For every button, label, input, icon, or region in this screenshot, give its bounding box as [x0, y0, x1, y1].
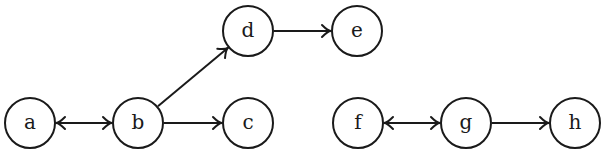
- node-f: f: [333, 98, 383, 148]
- node-b: b: [113, 98, 163, 148]
- node-c: c: [223, 98, 273, 148]
- edge-b-c: [164, 117, 222, 129]
- edge-line: [158, 48, 228, 107]
- graph-diagram: abcdefgh: [0, 0, 605, 153]
- node-label: c: [242, 110, 253, 134]
- node-label: h: [569, 110, 582, 134]
- nodes-layer: abcdefgh: [5, 6, 600, 148]
- edge-f-g: [384, 117, 440, 129]
- node-e: e: [332, 6, 382, 56]
- node-g: g: [441, 98, 491, 148]
- node-label: d: [242, 18, 255, 42]
- node-label: e: [351, 18, 363, 42]
- edge-a-b: [56, 117, 112, 129]
- node-label: a: [24, 110, 36, 134]
- edge-d-e: [274, 25, 331, 37]
- edge-g-h: [492, 117, 549, 129]
- edge-b-d: [158, 48, 228, 107]
- node-label: b: [132, 110, 145, 134]
- node-a: a: [5, 98, 55, 148]
- node-h: h: [550, 98, 600, 148]
- node-label: g: [460, 110, 473, 134]
- node-d: d: [223, 6, 273, 56]
